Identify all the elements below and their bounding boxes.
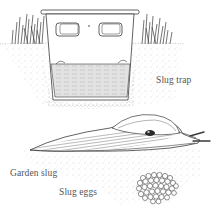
grass-left [12, 14, 44, 44]
slug-trap-icon [41, 10, 139, 100]
garden-slug-icon [30, 115, 210, 152]
slug-trap-label: Slug trap [156, 75, 191, 85]
slug-eggs-icon [134, 172, 180, 204]
grass-right [142, 14, 172, 44]
garden-slug-label: Garden slug [10, 168, 57, 178]
garden-pest-illustration [0, 0, 218, 216]
slug-eggs-label: Slug eggs [59, 187, 97, 197]
